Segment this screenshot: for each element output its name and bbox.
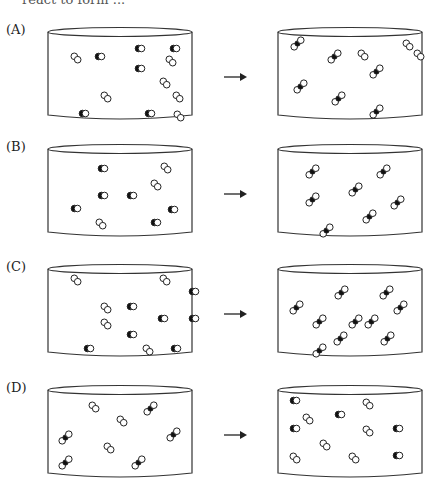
after-container (277, 385, 423, 477)
panel-label: (D) (6, 380, 27, 395)
reaction-arrow-icon (224, 304, 248, 314)
panel-label: (C) (6, 259, 26, 274)
panel-label: (B) (6, 139, 26, 154)
cut-off-question-text: react to form ... (22, 0, 125, 7)
reaction-arrow-icon (224, 67, 248, 77)
before-container (47, 264, 193, 356)
panel-a: (A) (0, 20, 438, 138)
before-container (47, 27, 193, 119)
panel-b: (B) (0, 137, 438, 255)
panel-d: (D) (0, 378, 438, 489)
after-container (277, 264, 423, 356)
before-container (47, 385, 193, 477)
panel-label: (A) (6, 22, 26, 37)
panel-c: (C) (0, 257, 438, 375)
before-container (47, 144, 193, 236)
after-container (277, 144, 423, 236)
reaction-arrow-icon (224, 184, 248, 194)
reaction-arrow-icon (224, 425, 248, 435)
after-container (277, 27, 423, 119)
